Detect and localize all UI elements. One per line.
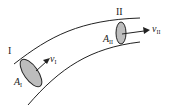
velocity-arrow-I	[36, 61, 47, 71]
velocity-I-label: vI	[50, 54, 56, 65]
tube-lower-wall	[28, 42, 140, 105]
flow-tube-diagram	[0, 0, 175, 108]
area-sub: I	[20, 82, 22, 88]
velocity-sub: II	[156, 29, 160, 35]
area-II-label: AII	[103, 34, 113, 45]
area-sub: II	[109, 39, 113, 45]
area-I-label: AI	[14, 77, 22, 88]
velocity-sub: I	[54, 59, 56, 65]
arrowhead-II	[143, 27, 150, 34]
velocity-II-label: vII	[152, 24, 160, 35]
section-I-label: I	[8, 46, 11, 56]
section-II-label: II	[116, 7, 123, 17]
cross-section-II	[116, 22, 126, 44]
